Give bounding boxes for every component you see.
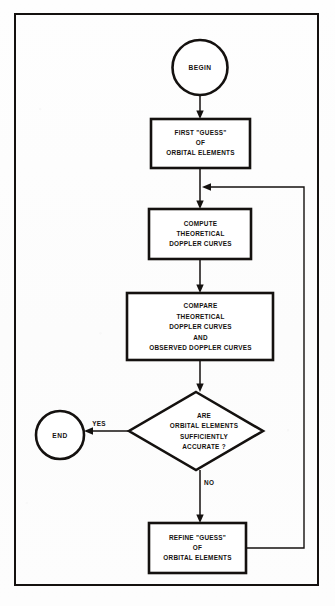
edge-label-no: NO	[204, 479, 214, 486]
node-first-guess: FIRST "GUESS" OF ORBITAL ELEMENTS	[151, 119, 250, 168]
edge-decision-to-end-yes	[84, 427, 131, 434]
end-label: END	[52, 432, 67, 439]
node-compute: COMPUTE THEORETICAL DOPPLER CURVES	[149, 209, 251, 259]
node-decision: ARE ORBITAL ELEMENTS SUFFICIENTLY ACCURA…	[129, 392, 263, 470]
edge-compute-to-compare	[196, 259, 203, 293]
first-guess-line-1: FIRST "GUESS"	[175, 129, 227, 136]
compare-line-2: THEORETICAL	[176, 313, 224, 320]
compute-line-2: THEORETICAL	[176, 230, 224, 237]
node-compare: COMPARE THEORETICAL DOPPLER CURVES AND O…	[127, 293, 273, 360]
decision-line-2: ORBITAL ELEMENTS	[170, 422, 239, 429]
refine-line-3: ORBITAL ELEMENTS	[163, 554, 232, 561]
edge-label-yes: YES	[92, 420, 106, 427]
begin-label: BEGIN	[188, 64, 211, 71]
first-guess-line-3: ORBITAL ELEMENTS	[166, 149, 235, 156]
flowchart-page: BEGIN FIRST "GUESS" OF ORBITAL ELEMENTS …	[0, 0, 335, 606]
first-guess-line-2: OF	[196, 139, 205, 146]
node-refine: REFINE "GUESS" OF ORBITAL ELEMENTS	[149, 523, 246, 573]
compute-line-1: COMPUTE	[184, 220, 218, 227]
decision-diamond	[129, 392, 263, 470]
compare-line-4: AND	[193, 334, 208, 341]
node-end: END	[36, 411, 84, 459]
compute-line-3: DOPPLER CURVES	[169, 240, 232, 247]
compare-line-1: COMPARE	[184, 302, 218, 309]
decision-line-4: ACCURATE ?	[182, 443, 226, 450]
edge-decision-to-refine-no	[196, 470, 203, 523]
node-begin: BEGIN	[173, 40, 228, 95]
compare-line-3: DOPPLER CURVES	[169, 323, 232, 330]
edge-begin-to-first-guess	[196, 95, 203, 119]
edge-first-guess-to-compute	[196, 168, 203, 209]
decision-line-3: SUFFICIENTLY	[180, 433, 229, 440]
compare-line-5: OBSERVED DOPPLER CURVES	[149, 344, 252, 351]
flowchart-canvas: BEGIN FIRST "GUESS" OF ORBITAL ELEMENTS …	[0, 0, 335, 606]
refine-line-1: REFINE "GUESS"	[169, 534, 226, 541]
refine-line-2: OF	[193, 544, 202, 551]
decision-line-1: ARE	[197, 412, 212, 419]
edge-compare-to-decision	[196, 360, 203, 392]
